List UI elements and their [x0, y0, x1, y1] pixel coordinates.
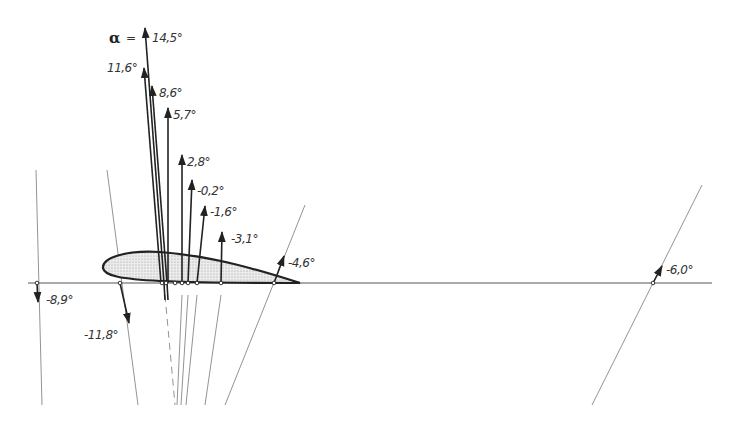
vector-m6-0: [653, 266, 662, 283]
label-alpha-5-7: 5,7°: [173, 108, 196, 122]
label-alpha-11-6: 11,6°: [107, 61, 137, 75]
alpha-symbol: α: [109, 29, 121, 47]
label-alpha-m4-6: -4,6°: [288, 256, 315, 270]
label-alpha-m11-8: -11,8°: [84, 328, 118, 342]
airfoil-profile: [103, 252, 300, 283]
alpha-equals: =: [126, 31, 136, 45]
lines-of-action: [36, 170, 702, 405]
vector-m8-9: [37, 283, 38, 302]
label-alpha-14-5: 14,5°: [152, 31, 182, 45]
label-alpha-m1-6: -1,6°: [210, 205, 237, 219]
vector-m3-1: [221, 232, 222, 283]
label-alpha-m6-0: -6,0°: [666, 263, 693, 277]
airfoil-force-diagram: α = 14,5° 11,6° 8,6° 5,7° 2,8° -0,2° -1,…: [0, 0, 732, 426]
label-alpha-m8-9: -8,9°: [46, 293, 73, 307]
label-alpha-m3-1: -3,1°: [231, 232, 258, 246]
diagram-canvas: α = 14,5° 11,6° 8,6° 5,7° 2,8° -0,2° -1,…: [0, 0, 732, 426]
label-alpha-m0-2: -0,2°: [197, 184, 224, 198]
vector-m11-8: [120, 283, 129, 323]
label-alpha-2-8: 2,8°: [187, 155, 210, 169]
vector-14-5: [145, 28, 164, 283]
label-alpha-8-6: 8,6°: [159, 86, 182, 100]
